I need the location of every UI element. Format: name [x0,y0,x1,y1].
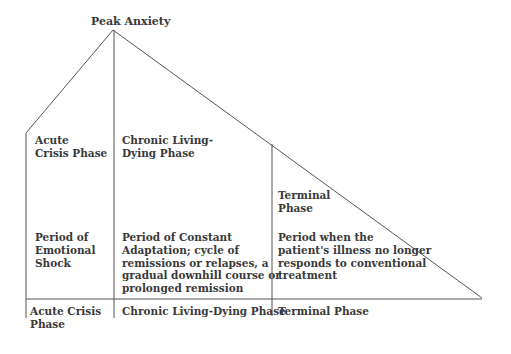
chronic-phase-description: Period of Constant Adaptation; cycle of … [122,231,281,295]
chronic-phase-axis-label: Chronic Living-Dying Phase [122,305,286,318]
terminal-phase-axis-label: Terminal Phase [278,305,369,318]
rising-anxiety-line [26,30,113,133]
acute-phase-axis-label: Acute Crisis Phase [30,305,101,331]
terminal-phase-name: Terminal Phase [278,189,330,215]
acute-phase-description: Period of Emotional Shock [35,231,95,269]
chronic-phase-name: Chronic Living- Dying Phase [122,134,213,160]
peak-anxiety-label: Peak Anxiety [91,16,170,29]
terminal-phase-description: Period when the patient's illness no lon… [278,231,431,282]
acute-phase-name: Acute Crisis Phase [35,134,107,160]
anxiety-curve-lines [0,0,511,354]
